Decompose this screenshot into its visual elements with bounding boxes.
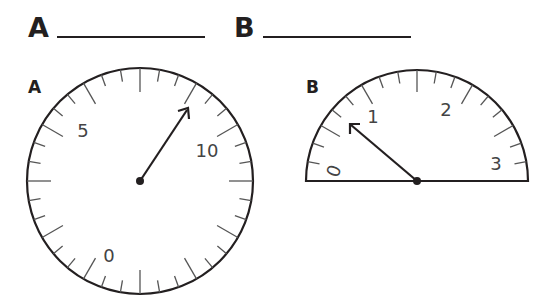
tick-mark (332, 110, 341, 118)
tick-mark (362, 85, 373, 104)
tick-mark (235, 216, 246, 220)
tick-mark (53, 246, 62, 254)
tick-mark (217, 226, 238, 238)
tick-mark (514, 162, 526, 164)
tick-mark (494, 126, 513, 137)
tick-mark (53, 108, 62, 116)
gauge-b-pivot (413, 177, 421, 185)
gauge-b-scale-1: 1 (367, 106, 378, 127)
gauges-canvas: A 5 10 0 B 1 2 3 0 (0, 0, 550, 307)
tick-mark (67, 258, 75, 267)
tick-mark (175, 276, 179, 287)
tick-mark (239, 161, 251, 163)
gauge-b-ticks (308, 70, 527, 164)
tick-mark (185, 83, 197, 104)
tick-mark (217, 108, 226, 116)
tick-mark (217, 246, 226, 254)
tick-mark (120, 70, 122, 82)
tick-mark (205, 258, 213, 267)
gauge-a: A 5 10 0 (27, 68, 253, 294)
tick-mark (29, 161, 41, 163)
tick-mark (29, 199, 41, 201)
gauge-b-needle (351, 125, 417, 181)
tick-mark (313, 143, 324, 147)
tick-mark (84, 83, 96, 104)
tick-mark (67, 94, 75, 103)
tick-mark (158, 70, 160, 82)
tick-mark (451, 77, 455, 88)
tick-mark (175, 75, 179, 86)
tick-mark (101, 75, 105, 86)
gauge-a-pivot (136, 177, 144, 185)
gauge-b-scale-2: 2 (440, 99, 451, 120)
tick-mark (398, 72, 400, 84)
tick-mark (493, 110, 502, 118)
tick-mark (42, 226, 63, 238)
gauge-b-label: B (306, 77, 319, 97)
tick-mark (101, 276, 105, 287)
tick-mark (462, 85, 473, 104)
tick-mark (205, 94, 213, 103)
gauge-a-scale-0: 0 (103, 245, 114, 266)
tick-mark (34, 216, 45, 220)
tick-mark (379, 77, 383, 88)
gauge-b-scale-0: 0 (322, 162, 346, 180)
gauge-b: B 1 2 3 0 (306, 70, 528, 185)
tick-mark (481, 96, 489, 105)
tick-mark (308, 162, 320, 164)
gauge-b-scale-3: 3 (490, 153, 501, 174)
tick-mark (235, 142, 246, 146)
gauge-a-label: A (28, 77, 42, 97)
tick-mark (84, 258, 96, 279)
tick-mark (34, 142, 45, 146)
tick-mark (321, 126, 340, 137)
tick-mark (42, 125, 63, 137)
tick-mark (217, 125, 238, 137)
tick-mark (239, 199, 251, 201)
gauge-a-scale-10: 10 (196, 140, 219, 161)
tick-mark (434, 72, 436, 84)
tick-mark (510, 143, 521, 147)
tick-mark (185, 258, 197, 279)
tick-mark (346, 96, 354, 105)
tick-mark (158, 280, 160, 292)
gauge-a-needle (140, 110, 187, 181)
gauge-a-scale-5: 5 (77, 120, 88, 141)
tick-mark (120, 280, 122, 292)
